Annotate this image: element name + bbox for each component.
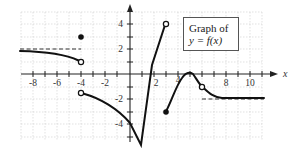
x-axis-label: x xyxy=(282,68,288,79)
curve-piece-1 xyxy=(20,51,79,61)
y-tick-label: -4 xyxy=(115,119,123,129)
open-point-icon xyxy=(163,21,168,26)
y-tick-label: 4 xyxy=(118,19,123,29)
y-tick-label: -2 xyxy=(115,94,123,104)
open-point-icon xyxy=(78,90,83,95)
x-axis: -8 -6 -4 -2 2 4 8 10 x xyxy=(21,68,288,88)
x-tick-label: 8 xyxy=(224,78,229,88)
x-tick-label: -4 xyxy=(77,78,85,88)
x-tick-label: 10 xyxy=(245,78,255,88)
y-axis-arrow-icon xyxy=(127,4,133,12)
legend-line-2: y = f(x) xyxy=(189,34,238,46)
open-point-icon xyxy=(199,84,204,89)
closed-point-icon xyxy=(78,34,84,40)
x-tick-label: -8 xyxy=(29,78,37,88)
x-axis-arrow-icon xyxy=(270,71,278,77)
legend-line-1: Graph of xyxy=(189,22,238,34)
closed-point-icon xyxy=(163,109,169,115)
y-axis: 4 2 -2 -4 xyxy=(115,4,133,142)
open-point-icon xyxy=(78,59,83,64)
function-graph: -8 -6 -4 -2 2 4 8 10 x 4 2 -2 -4 xyxy=(0,0,293,152)
y-tick-label: 2 xyxy=(118,44,123,54)
x-tick-label: -6 xyxy=(53,78,61,88)
x-tick-label: 2 xyxy=(154,78,159,88)
graph-legend: Graph of y = f(x) xyxy=(183,17,239,51)
x-tick-label: -2 xyxy=(101,78,109,88)
